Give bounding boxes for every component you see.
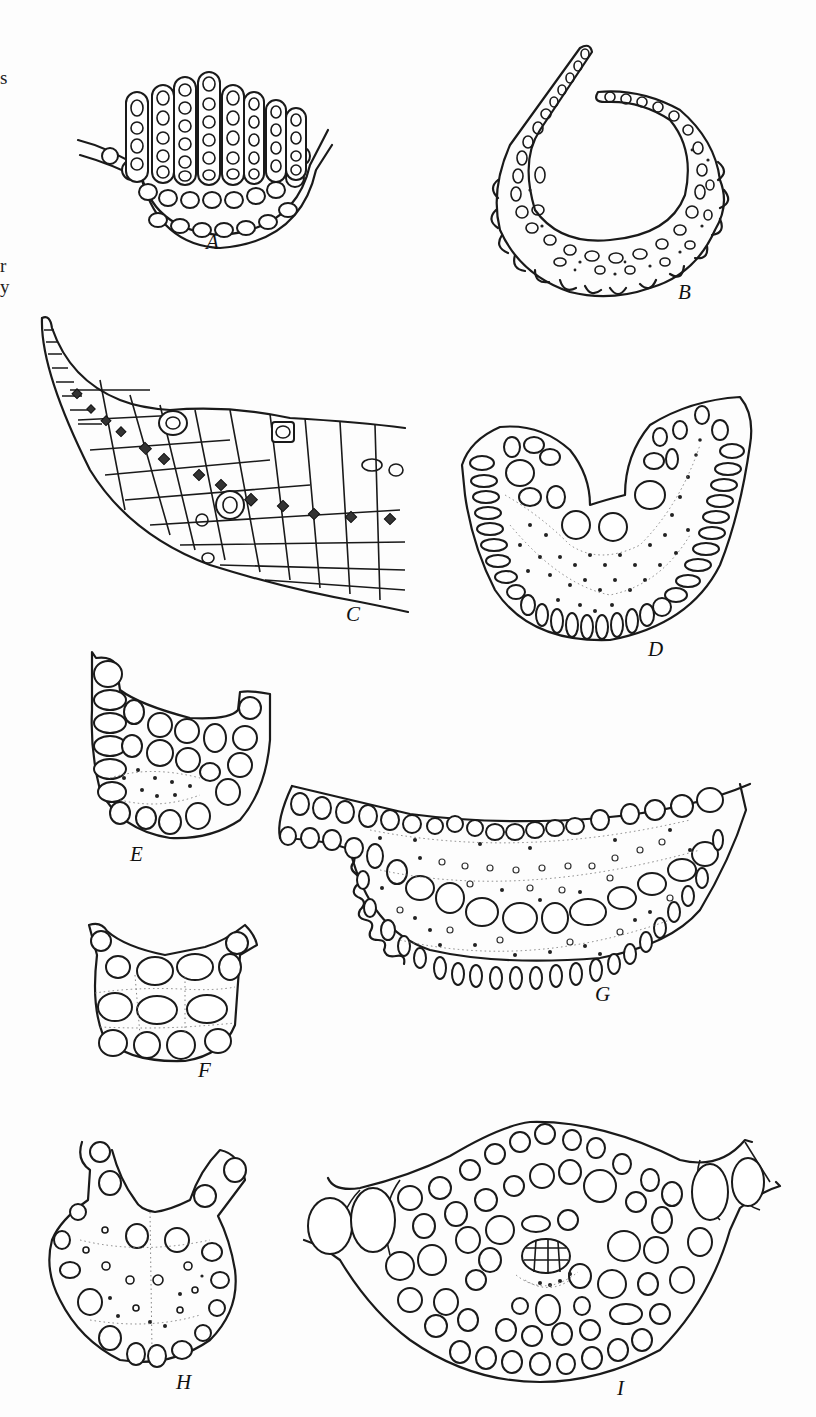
panel-e: E xyxy=(90,650,290,870)
panel-g: G xyxy=(270,770,810,1020)
crescent-costa-section-illustration xyxy=(270,770,810,1020)
leaf-section-lamellae-illustration xyxy=(70,30,370,270)
rounded-costa-section-h-illustration xyxy=(40,1140,250,1400)
panel-i: I xyxy=(300,1120,790,1417)
lens-shaped-costa-section-illustration xyxy=(300,1120,790,1417)
small-costa-section-e-illustration xyxy=(90,650,290,870)
u-shaped-costa-section-illustration xyxy=(450,385,760,675)
panel-label-b: B xyxy=(678,280,691,305)
edge-text-fragment: y xyxy=(0,277,10,297)
panel-label-e: E xyxy=(130,842,143,867)
panel-label-d: D xyxy=(648,637,663,662)
panel-label-i: I xyxy=(617,1376,624,1401)
panel-a: A xyxy=(70,30,370,270)
tapering-leaf-section-illustration xyxy=(30,310,430,640)
panel-b: B xyxy=(480,30,770,320)
panel-c: C xyxy=(30,310,430,640)
panel-label-f: F xyxy=(198,1058,211,1083)
small-costa-section-f-illustration xyxy=(85,915,275,1080)
edge-text-fragment: r xyxy=(0,256,6,276)
edge-text-fragment: s xyxy=(0,68,7,88)
curved-leaf-section-illustration xyxy=(480,30,770,320)
panel-label-h: H xyxy=(176,1370,191,1395)
panel-h: H xyxy=(40,1140,250,1400)
panel-label-c: C xyxy=(346,602,360,627)
panel-label-g: G xyxy=(595,982,610,1007)
panel-label-a: A xyxy=(206,230,219,255)
panel-d: D xyxy=(450,385,760,675)
panel-f: F xyxy=(85,915,275,1080)
